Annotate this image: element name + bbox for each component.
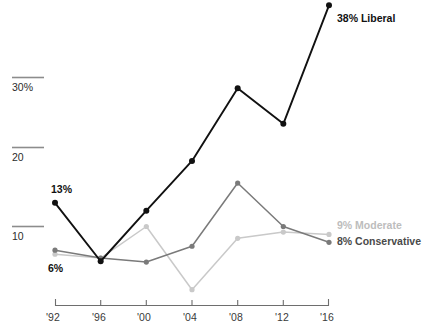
- data-point-moderate-16: [326, 232, 331, 237]
- data-point-conservative-04: [189, 244, 194, 249]
- data-point-liberal-04: [189, 158, 195, 164]
- annotation-conservative-start-6: 6%: [48, 262, 63, 274]
- series-line-conservative: [55, 183, 329, 262]
- data-point-conservative-12: [281, 224, 286, 229]
- data-point-liberal-12: [280, 121, 286, 127]
- x-tick-label-92: '92: [46, 311, 60, 323]
- data-point-liberal-92: [52, 200, 58, 206]
- x-tick-label-08: '08: [229, 311, 243, 323]
- x-tick-label-96: '96: [92, 311, 106, 323]
- annotation-liberal-start-13: 13%: [51, 183, 72, 195]
- data-point-conservative-08: [235, 180, 240, 185]
- data-point-conservative-16: [326, 240, 331, 245]
- series-end-label-liberal: 38% Liberal: [337, 12, 395, 24]
- series-line-liberal: [55, 5, 329, 261]
- data-point-conservative-92: [52, 248, 57, 253]
- data-point-conservative-00: [144, 259, 149, 264]
- data-point-liberal-96: [98, 258, 104, 264]
- series-layer: [52, 2, 332, 292]
- x-tick-label-00: '00: [137, 311, 151, 323]
- data-point-moderate-00: [144, 224, 149, 229]
- x-tick-label-16: '16: [320, 311, 334, 323]
- series-line-moderate: [55, 227, 329, 290]
- series-end-label-moderate: 9% Moderate: [337, 219, 402, 231]
- data-point-liberal-08: [235, 85, 241, 91]
- y-tick-label-10: 10: [12, 230, 24, 242]
- line-chart-ideology-trend: 30% 20 10 '92 '96 '00 '04 '08 '12 '16 13…: [0, 0, 427, 333]
- y-tick-label-20: 20: [12, 151, 24, 163]
- x-tick-label-04: '04: [183, 311, 197, 323]
- y-tick-label-30: 30%: [12, 81, 33, 93]
- data-point-moderate-12: [281, 229, 286, 234]
- data-point-liberal-16: [326, 2, 332, 8]
- x-tick-label-12: '12: [275, 311, 289, 323]
- series-end-label-conservative: 8% Conservative: [337, 235, 421, 247]
- data-point-liberal-00: [143, 208, 149, 214]
- data-point-moderate-08: [235, 236, 240, 241]
- chart-plot-area: [0, 0, 427, 333]
- data-point-moderate-04: [189, 287, 194, 292]
